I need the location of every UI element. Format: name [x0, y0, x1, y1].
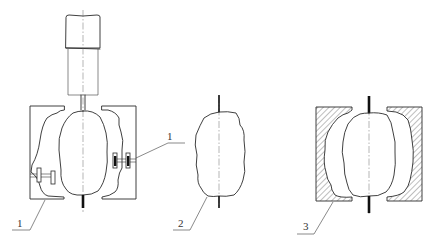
callout-1-right: 1	[136, 130, 185, 158]
callout-3: 3	[297, 202, 333, 234]
panel-a: 1 1	[12, 10, 185, 230]
callout-label: 1	[17, 217, 23, 229]
callout-label: 3	[303, 220, 309, 232]
callout-label: 1	[167, 130, 173, 142]
specimen	[195, 112, 245, 197]
clamp-bolt-right	[113, 153, 136, 168]
callout-1-left: 1	[12, 200, 45, 230]
hatched-mold-left	[316, 107, 352, 201]
panel-c: 3	[297, 96, 422, 234]
hatched-mold-right	[387, 107, 422, 201]
callout-2: 2	[173, 197, 207, 230]
clamp-bolt-left	[30, 168, 55, 184]
technical-diagram: 1 1 2 3	[0, 0, 430, 244]
panel-b: 2	[173, 95, 245, 230]
callout-label: 2	[178, 217, 184, 229]
